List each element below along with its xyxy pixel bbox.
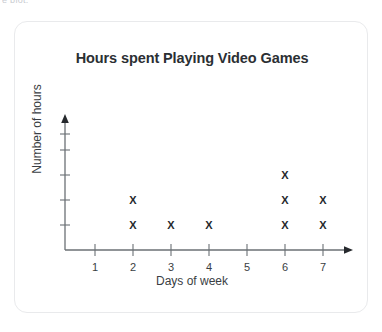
x-tick-label-7: 7 — [314, 261, 332, 273]
x-tick-label-4: 4 — [200, 261, 218, 273]
y-axis-title: Number of hours — [30, 64, 44, 194]
data-mark-day-6-level-2: X — [277, 195, 293, 206]
data-mark-day-6-level-3: X — [277, 170, 293, 181]
x-tick-label-5: 5 — [238, 261, 256, 273]
x-tick-label-3: 3 — [162, 261, 180, 273]
x-tick-label-2: 2 — [124, 261, 142, 273]
data-mark-day-3-level-1: X — [163, 220, 179, 231]
data-mark-day-6-level-1: X — [277, 220, 293, 231]
data-mark-day-2-level-2: X — [125, 195, 141, 206]
data-mark-day-7-level-1: X — [315, 220, 331, 231]
y-axis-arrow-icon — [61, 114, 69, 123]
chart-card: Hours spent Playing Video Games — [14, 21, 368, 313]
x-tick-label-1: 1 — [86, 261, 104, 273]
data-mark-day-4-level-1: X — [201, 220, 217, 231]
x-axis-arrow-icon — [344, 246, 353, 254]
dot-plot: 1 2 3 4 5 6 7 XXXXXXXXX Number of hours … — [15, 22, 369, 314]
data-mark-day-7-level-2: X — [315, 195, 331, 206]
clipped-text-artifact: e plot. — [2, 0, 29, 3]
x-axis-title: Days of week — [15, 274, 369, 288]
data-mark-day-2-level-1: X — [125, 220, 141, 231]
x-tick-label-6: 6 — [276, 261, 294, 273]
